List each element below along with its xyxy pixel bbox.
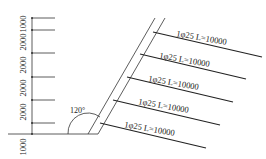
dim-label: 2000 <box>18 104 28 121</box>
dimension-chain <box>8 18 60 134</box>
angle-label: 120° <box>70 106 85 115</box>
nail-label: 1φ25 L=10000 <box>148 73 200 92</box>
dim-label: 2000 <box>18 80 28 97</box>
dim-label: 1000 <box>18 139 28 156</box>
dim-label: 1000 <box>18 16 28 33</box>
soil-nail-diagram: 1000 2000 2000 2000 2000 1000 120° 1φ25 … <box>0 0 266 159</box>
dim-label: 2000 <box>18 57 28 74</box>
nail-label: 1φ25 L=10000 <box>176 28 228 47</box>
nail-label: 1φ25 L=10000 <box>159 50 211 69</box>
dimension-labels: 1000 2000 2000 2000 2000 1000 <box>18 16 28 156</box>
dim-label: 2000 <box>18 34 28 51</box>
nails <box>100 32 262 148</box>
